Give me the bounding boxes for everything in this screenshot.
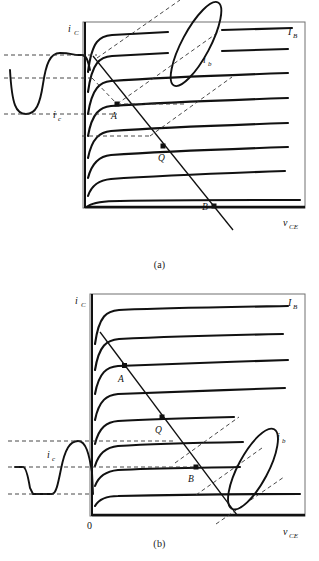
figure-caption-a: (a) (0, 259, 319, 270)
projection-lines-a (97, 0, 232, 136)
figure-a-canvas: i C v CE I B i b i c A Q B (0, 0, 319, 282)
figure-a: i C v CE I B i b i c A Q B (0, 0, 319, 282)
plot-frame-b (90, 294, 305, 516)
ic-waveform-a (10, 53, 90, 114)
curve-a-7 (88, 171, 285, 196)
ic-label-sub-a: c (58, 115, 62, 123)
y-axis-label-sub-a: C (74, 29, 79, 37)
family-label-b: I (287, 297, 292, 308)
family-label-sub-b: B (293, 303, 298, 311)
point-label-A-a: A (110, 111, 117, 121)
operating-points-a (115, 102, 217, 209)
point-marker-A-b (122, 363, 127, 368)
ib-label-a: i (203, 54, 206, 65)
curve-b-5 (95, 417, 234, 444)
figure-b: i C v CE 0 I B i b i c A Q B (0, 272, 319, 561)
ic-label-sub-b: c (52, 455, 56, 463)
y-axis-label-b: i (75, 295, 78, 306)
point-label-Q-a: Q (158, 153, 165, 163)
curve-a-1b (222, 28, 292, 30)
characteristic-curves-b (95, 306, 300, 506)
curve-a-2b (222, 49, 288, 51)
ib-label-sub-b: b (282, 437, 286, 445)
point-marker-Q-b (160, 415, 165, 420)
ic-label-a: i (53, 109, 56, 120)
x-axis-label-sub-a: CE (289, 223, 299, 231)
family-label-sub-a: B (293, 32, 298, 40)
ib-label-sub-a: b (208, 60, 212, 68)
characteristic-curves-a (88, 28, 300, 206)
curve-b-7 (95, 467, 240, 486)
ic-curve-a (10, 53, 90, 114)
y-axis-label-sub-b: C (81, 301, 86, 309)
point-marker-A-a (115, 102, 120, 107)
ic-label-b: i (47, 449, 50, 460)
curve-b-8 (95, 494, 300, 506)
point-marker-B-b (194, 465, 199, 470)
ic-waveform-b (15, 441, 93, 494)
point-label-B-b: B (188, 474, 194, 484)
figure-b-canvas: i C v CE 0 I B i b i c A Q B (0, 272, 319, 561)
load-line-b (100, 332, 237, 515)
curve-b-6 (95, 442, 243, 466)
point-marker-Q-a (161, 144, 166, 149)
point-label-B-a: B (202, 202, 208, 212)
point-marker-B-a (212, 204, 217, 209)
point-label-Q-b: Q (155, 425, 162, 435)
y-axis-label-a: i (68, 23, 71, 34)
curve-a-5 (88, 123, 288, 158)
proj-b-upper (175, 417, 239, 463)
x-axis-label-a: v (283, 217, 288, 228)
family-label-a: I (287, 26, 292, 37)
point-label-A-b: A (117, 374, 124, 384)
curve-a-8 (88, 200, 300, 206)
proj-a-mid (117, 31, 220, 104)
x-axis-label-b: v (283, 526, 288, 537)
proj-a-upper (97, 0, 180, 58)
operating-points-b (122, 363, 199, 470)
curve-a-1 (88, 32, 168, 72)
figure-page: i C v CE I B i b i c A Q B (a) (0, 0, 319, 561)
figure-caption-b: (b) (0, 538, 319, 549)
ib-label-b: i (277, 431, 280, 442)
ic-curve-b (15, 441, 93, 494)
origin-label-b: 0 (87, 520, 92, 531)
curve-b-4 (95, 388, 285, 420)
